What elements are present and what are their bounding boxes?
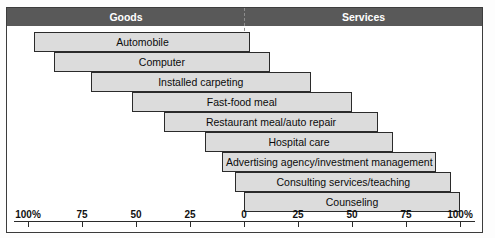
- goods-band-label: Goods: [7, 8, 245, 26]
- bar-label: Hospital care: [206, 133, 392, 151]
- bar-label: Restaurant meal/auto repair: [165, 113, 377, 131]
- bar-label: Installed carpeting: [92, 73, 310, 91]
- axis-tick-label: 75: [400, 209, 411, 220]
- bar-label: Fast-food meal: [133, 93, 351, 111]
- axis-tick-label: 100%: [447, 209, 473, 220]
- axis-tick: [82, 221, 83, 227]
- bar-restaurant-meal-auto-repair: Restaurant meal/auto repair: [164, 112, 378, 132]
- bar-consulting-services-teaching: Consulting services/teaching: [235, 172, 451, 192]
- percentage-axis: 100%7550250255075100%: [7, 221, 482, 233]
- axis-tick: [136, 221, 137, 227]
- bar-computer: Computer: [54, 52, 270, 72]
- bar-label: Advertising agency/investment management: [223, 153, 435, 171]
- bar-automobile: Automobile: [34, 32, 250, 52]
- bar-fast-food-meal: Fast-food meal: [132, 92, 352, 112]
- axis-tick: [406, 221, 407, 227]
- axis-tick-label: 50: [130, 209, 141, 220]
- tangibility-spectrum-figure: Goods Services AutomobileComputerInstall…: [0, 0, 495, 238]
- axis-tick-label: 100%: [15, 209, 41, 220]
- axis-tick-label: 75: [76, 209, 87, 220]
- axis-tick-label: 25: [184, 209, 195, 220]
- bar-label: Consulting services/teaching: [236, 173, 450, 191]
- bar-label: Automobile: [35, 33, 249, 51]
- axis-tick: [190, 221, 191, 227]
- bars-plot-area: AutomobileComputerInstalled carpetingFas…: [7, 26, 482, 232]
- services-band-label: Services: [245, 8, 482, 26]
- axis-tick: [352, 221, 353, 227]
- axis-tick: [298, 221, 299, 227]
- bar-advertising-agency-investment-management: Advertising agency/investment management: [222, 152, 436, 172]
- axis-tick: [244, 221, 245, 227]
- axis-tick-label: 25: [292, 209, 303, 220]
- bar-installed-carpeting: Installed carpeting: [91, 72, 311, 92]
- axis-tick: [460, 221, 461, 227]
- axis-tick-label: 0: [241, 209, 247, 220]
- axis-tick-label: 50: [346, 209, 357, 220]
- bar-label: Computer: [55, 53, 269, 71]
- bar-hospital-care: Hospital care: [205, 132, 393, 152]
- axis-tick: [28, 221, 29, 227]
